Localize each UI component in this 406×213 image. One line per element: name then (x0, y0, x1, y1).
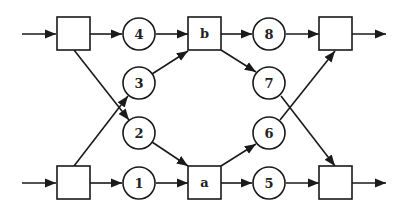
edge-6-topright (280, 51, 335, 120)
flow-diagram: b a 1 2 3 4 5 6 7 8 (0, 0, 406, 213)
circle-6-label: 6 (264, 126, 273, 141)
edge-a-6 (221, 144, 256, 166)
edge-2-a (152, 142, 188, 166)
edge-b-7 (221, 50, 256, 72)
box-a-label: a (200, 175, 209, 190)
circle-8-label: 8 (264, 27, 273, 42)
circle-3-label: 3 (134, 76, 143, 91)
circle-2-label: 2 (134, 126, 143, 141)
circle-1-label: 1 (134, 176, 143, 191)
box-bottom-left (57, 166, 90, 199)
edge-7-bottomright (281, 96, 335, 166)
circle-7-label: 7 (264, 76, 273, 91)
box-bottom-right (319, 166, 352, 199)
edge-bottomleft-3 (74, 96, 128, 166)
edge-3-b (152, 51, 188, 74)
edge-topleft-2 (74, 50, 129, 120)
box-top-left (57, 17, 90, 50)
box-b-label: b (200, 26, 209, 41)
circle-4-label: 4 (134, 27, 143, 42)
box-top-right (319, 17, 352, 50)
circle-5-label: 5 (264, 176, 273, 191)
